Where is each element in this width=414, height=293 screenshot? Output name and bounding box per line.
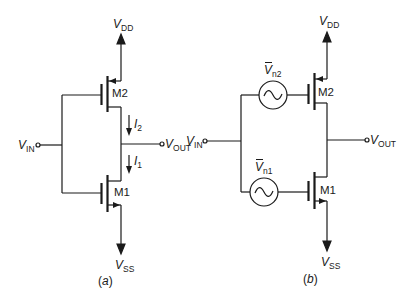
noise-source-vn2 <box>259 81 287 109</box>
vn1-label: Vn1 <box>255 161 272 176</box>
i2-label: I2 <box>134 118 142 133</box>
m1-label-b: M1 <box>320 185 336 197</box>
m2-label-b: M2 <box>318 87 334 99</box>
m1-label-a: M1 <box>114 187 130 199</box>
vss-label-b: VSS <box>321 256 340 271</box>
vss-arrowhead-b <box>323 241 331 251</box>
vin-label-a: VIN <box>18 139 35 154</box>
cmos-inverter-schematics <box>0 0 414 293</box>
vss-arrowhead-a <box>117 244 125 254</box>
panel-a-schematic <box>36 34 164 254</box>
vss-label-a: VSS <box>115 259 134 274</box>
caption-a: (a) <box>98 275 113 287</box>
panel-b-schematic <box>203 32 369 251</box>
vdd-label-a: VDD <box>113 18 133 33</box>
vout-terminal-b <box>365 138 369 142</box>
vin-label-b: VIN <box>186 135 203 150</box>
vin-terminal-a <box>36 143 40 147</box>
m2-label-a: M2 <box>112 88 128 100</box>
i1-label: I1 <box>134 155 142 170</box>
noise-source-vn1 <box>250 178 278 206</box>
vn2-label: Vn2 <box>264 64 281 79</box>
vdd-arrowhead-a <box>117 34 125 44</box>
vout-terminal-a <box>160 142 164 146</box>
caption-b: (b) <box>303 273 318 285</box>
vout-label-b: VOUT <box>370 134 396 149</box>
vdd-label-b: VDD <box>319 15 339 30</box>
vin-terminal-b <box>203 139 207 143</box>
vdd-arrowhead-b <box>323 32 331 42</box>
